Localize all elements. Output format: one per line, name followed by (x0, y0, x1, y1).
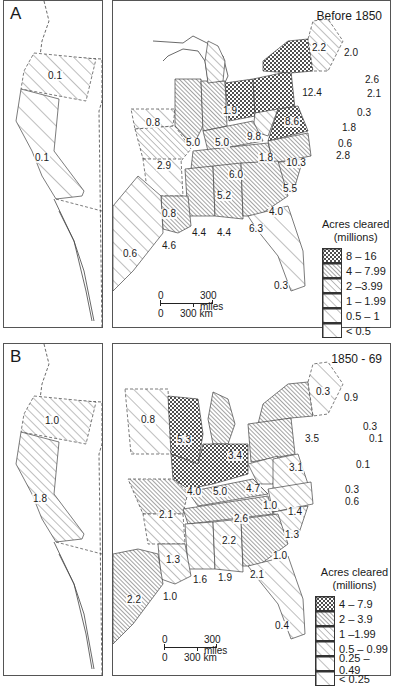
scale-km-zero: 0 (162, 652, 168, 663)
region-value-vermont: 2.2 (311, 43, 327, 53)
region-value-iowa-illinois: 4.0 (186, 487, 202, 497)
legend-item: 2 – 3.9 (315, 611, 394, 626)
region-value-illinois: 5.0 (185, 138, 201, 148)
region-value-georgia: 2.1 (249, 570, 265, 580)
legend-item: 2 –3.99 (322, 278, 389, 293)
scale-km-label: 300 km (180, 308, 213, 319)
legend-item: 0.25 – 0.49 (315, 656, 394, 671)
legend-label: 0.5 – 1 (346, 310, 380, 322)
region-value-oregon: 0.1 (47, 71, 63, 81)
legend-title: Acres cleared (millions) (315, 566, 394, 592)
legend-title-line1: Acres cleared (322, 218, 389, 231)
region-value-maryland-nj: 2.8 (335, 151, 351, 161)
region-value-pennsylvania: 8.6 (284, 117, 300, 127)
region-value-texas: 2.2 (126, 595, 142, 605)
region-value-missouri: 2.9 (156, 161, 172, 171)
region-value-mississippi: 4.4 (191, 228, 207, 238)
region-value-florida: 0.3 (273, 281, 289, 291)
region-value-new-york: 3.5 (304, 434, 320, 444)
legend-label: < 0.5 (346, 325, 371, 337)
region-value-new-hampshire: 0.3 (362, 422, 378, 432)
region-value-south-carolina: 4.0 (268, 207, 284, 217)
region-value-new-hampshire: 2.6 (364, 75, 380, 85)
region-value-north-carolina: 5.5 (282, 184, 298, 194)
region-value-ohio: 9.8 (246, 132, 262, 142)
region-value-minnesota: 0.8 (140, 415, 156, 425)
region-value-california: 0.1 (34, 153, 50, 163)
region-value-oregon: 1.0 (44, 416, 60, 426)
region-value-delaware: 0.6 (337, 139, 353, 149)
region-value-kentucky: 2.6 (233, 514, 249, 524)
legend-label: 1 – 1.99 (346, 295, 386, 307)
legend-label: 1 –1.99 (339, 628, 376, 640)
west-coast-map (4, 1, 103, 328)
region-value-massachusetts: 0.1 (368, 434, 384, 444)
region-value-delaware: 0.3 (344, 485, 360, 495)
legend-item: 1 – 1.99 (322, 293, 389, 308)
region-value-ohio: 4.7 (245, 484, 261, 494)
region-value-west-virginia: 1.0 (262, 501, 278, 511)
legend-a: Acres cleared (millions) 8 – 16 4 – 7.99… (322, 218, 389, 338)
region-value-alabama: 1.9 (217, 573, 233, 583)
region-value-virginia: 10.3 (285, 158, 306, 168)
legend-title-line2: (millions) (322, 231, 389, 244)
region-value-kentucky: 6.0 (228, 170, 244, 180)
region-value-massachusetts: 2.1 (366, 89, 382, 99)
legend-item: 4 – 7.9 (315, 596, 394, 611)
legend-title: Acres cleared (millions) (322, 218, 389, 244)
region-value-florida: 0.4 (274, 621, 290, 631)
region-value-vermont: 0.3 (315, 387, 331, 397)
legend-item: < 0.5 (322, 323, 389, 338)
legend-b: Acres cleared (millions) 4 – 7.9 2 – 3.9… (315, 566, 394, 686)
region-value-north-carolina: 1.3 (284, 530, 300, 540)
region-value-arkansas: 1.3 (165, 555, 181, 565)
region-value-mississippi: 1.6 (192, 575, 208, 585)
region-value-arkansas: 0.8 (161, 209, 177, 219)
legend-item: 1 –1.99 (315, 626, 394, 641)
region-value-rhode-island: 0.3 (356, 108, 372, 118)
region-value-wisconsin: 5.3 (176, 435, 192, 445)
legend-title-line1: Acres cleared (315, 566, 394, 579)
legend-label: 2 –3.99 (346, 280, 383, 292)
panel-b-west: B (3, 343, 103, 676)
panel-a-west: A 0.1 0.1 (3, 0, 103, 328)
region-value-indiana: 5.0 (212, 487, 228, 497)
region-value-louisiana: 1.0 (162, 592, 178, 602)
region-value-west-virginia: 1.8 (258, 153, 274, 163)
region-value-michigan: 3.4 (227, 451, 243, 461)
west-coast-map (4, 344, 103, 676)
scale-km-zero: 0 (158, 308, 164, 319)
legend-label: 4 – 7.99 (346, 265, 386, 277)
region-value-maryland-nj: 0.6 (344, 497, 360, 507)
region-value-texas: 0.6 (122, 249, 138, 259)
legend-item: 0.5 – 1 (322, 308, 389, 323)
region-value-tennessee: 5.2 (216, 191, 232, 201)
region-value-connecticut: 1.8 (341, 123, 357, 133)
legend-label: < 0.25 (339, 673, 370, 685)
legend-label: 4 – 7.9 (339, 598, 373, 610)
region-value-new-york: 12.4 (301, 88, 322, 98)
region-value-virginia: 1.4 (287, 507, 303, 517)
region-value-louisiana: 4.6 (161, 241, 177, 251)
region-value-maine: 2.0 (343, 48, 359, 58)
region-value-missouri: 2.1 (158, 510, 174, 520)
region-value-south-carolina: 1.0 (272, 551, 288, 561)
region-value-indiana: 5.0 (214, 138, 230, 148)
region-value-georgia: 6.3 (248, 224, 264, 234)
legend-label: 2 – 3.9 (339, 613, 373, 625)
region-value-rhode-island-ct: 0.1 (355, 460, 371, 470)
scale-bar-b: 0 300 miles 0 300 km (162, 634, 242, 664)
legend-label: 8 – 16 (346, 250, 377, 262)
region-value-tennessee: 2.2 (221, 536, 237, 546)
scale-bar-a: 0 300 miles 0 300 km (158, 290, 238, 320)
region-value-maine: 0.9 (343, 393, 359, 403)
region-value-alabama: 4.4 (216, 228, 232, 238)
legend-item: 8 – 16 (322, 248, 389, 263)
scale-km-label: 300 km (184, 652, 217, 663)
region-value-michigan: 1.9 (222, 106, 238, 116)
legend-item: 4 – 7.99 (322, 263, 389, 278)
region-value-california: 1.8 (32, 494, 48, 504)
region-value-pennsylvania: 3.1 (288, 463, 304, 473)
legend-title-line2: (millions) (315, 579, 394, 592)
region-value-iowa: 0.8 (145, 118, 161, 128)
